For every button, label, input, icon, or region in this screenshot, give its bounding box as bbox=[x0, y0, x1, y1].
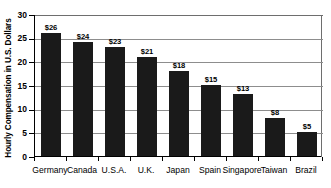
y-axis-tick-label: 15 bbox=[4, 82, 27, 91]
x-axis-tick-mark bbox=[162, 157, 163, 161]
y-axis-tick-label: 5 bbox=[4, 129, 27, 138]
bar bbox=[201, 85, 222, 156]
bar bbox=[73, 42, 94, 156]
bar-value-label: $5 bbox=[291, 123, 323, 131]
plot-area: $26$24$23$21$18$15$13$8$5 bbox=[34, 15, 322, 157]
x-axis-tick-mark bbox=[34, 157, 35, 161]
bar bbox=[265, 118, 286, 156]
x-axis-tick-mark bbox=[258, 157, 259, 161]
x-axis-tick-mark bbox=[290, 157, 291, 161]
bar bbox=[137, 57, 158, 156]
bar-value-label: $18 bbox=[163, 62, 195, 70]
bar-value-label: $26 bbox=[35, 24, 67, 32]
bar bbox=[297, 132, 318, 156]
bar-value-label: $15 bbox=[195, 76, 227, 84]
bar-chart: Hourly Compensation in U.S. Dollars 0510… bbox=[0, 0, 331, 188]
y-axis-tick-label: 30 bbox=[4, 11, 27, 20]
x-axis-label: Brazil bbox=[286, 165, 326, 175]
y-axis-tick-label: 0 bbox=[4, 153, 27, 162]
bar-value-label: $21 bbox=[131, 48, 163, 56]
y-axis-tick-label: 25 bbox=[4, 34, 27, 43]
x-axis-tick-mark bbox=[130, 157, 131, 161]
bar-value-label: $13 bbox=[227, 85, 259, 93]
x-axis-tick-mark bbox=[66, 157, 67, 161]
bar-value-label: $24 bbox=[67, 33, 99, 41]
x-axis-tick-mark bbox=[98, 157, 99, 161]
x-axis-tick-mark bbox=[194, 157, 195, 161]
bar-value-label: $8 bbox=[259, 109, 291, 117]
x-axis-tick-mark bbox=[322, 157, 323, 161]
bar bbox=[169, 71, 190, 156]
y-axis-tick-label: 10 bbox=[4, 105, 27, 114]
bar bbox=[41, 33, 62, 156]
bar bbox=[233, 94, 254, 156]
bar-value-label: $23 bbox=[99, 38, 131, 46]
bar bbox=[105, 47, 126, 156]
y-axis-tick-label: 20 bbox=[4, 58, 27, 67]
x-axis-tick-mark bbox=[226, 157, 227, 161]
gridline bbox=[35, 15, 323, 16]
